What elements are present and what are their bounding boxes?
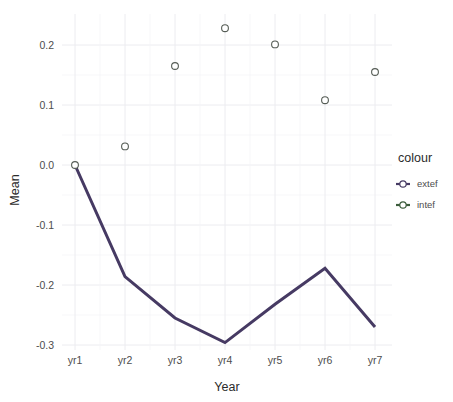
data-point-intef (172, 63, 179, 70)
y-tick-label: 0.2 (39, 39, 54, 51)
y-tick-label: -0.3 (36, 339, 54, 351)
chart-container: 0.20.10.0-0.1-0.2-0.3 yr1yr2yr3yr4yr5yr6… (0, 0, 453, 402)
y-tick-label: 0.0 (39, 159, 54, 171)
legend-key-point (400, 181, 406, 187)
x-axis-title: Year (214, 380, 239, 394)
x-tick-label: yr6 (318, 354, 333, 366)
legend-item-label: intef (417, 199, 435, 210)
y-tick-label: 0.1 (39, 99, 54, 111)
data-point-intef (122, 143, 129, 150)
y-axis-title: Mean (8, 174, 22, 205)
legend-item-label: extef (417, 178, 438, 189)
data-point-intef (322, 97, 329, 104)
ggplot-scatter-line-chart: 0.20.10.0-0.1-0.2-0.3 yr1yr2yr3yr4yr5yr6… (0, 0, 453, 402)
x-tick-label: yr7 (368, 354, 383, 366)
data-point-intef (222, 25, 229, 32)
data-point-intef (272, 41, 279, 48)
data-point-extef (72, 162, 79, 169)
legend-key-point (400, 202, 406, 208)
plot-panel (62, 14, 392, 350)
x-tick-label: yr3 (168, 354, 183, 366)
legend: colour extefintef (396, 151, 438, 210)
y-tick-label: -0.2 (36, 279, 54, 291)
x-tick-label: yr2 (118, 354, 133, 366)
legend-title: colour (398, 151, 432, 165)
x-tick-label: yr1 (68, 354, 83, 366)
y-tick-label: -0.1 (36, 219, 54, 231)
data-point-intef (372, 69, 379, 76)
x-tick-label: yr5 (268, 354, 283, 366)
x-tick-label: yr4 (218, 354, 233, 366)
